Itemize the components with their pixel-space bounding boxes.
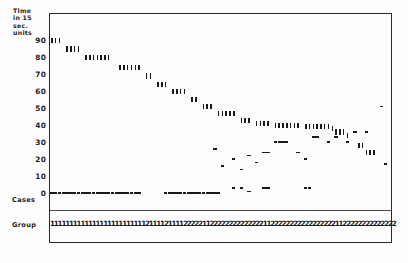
data-mark — [218, 111, 220, 116]
data-mark — [260, 121, 262, 126]
data-mark — [195, 97, 197, 102]
data-mark — [222, 111, 224, 116]
data-mark — [275, 123, 277, 128]
data-mark — [290, 123, 292, 128]
data-mark — [256, 121, 258, 126]
data-mark — [327, 141, 330, 143]
data-mark — [308, 187, 311, 189]
data-mark — [365, 131, 368, 133]
data-mark — [191, 97, 193, 102]
y-tick-label-30: 30 — [24, 138, 46, 147]
y-tick-label-80: 80 — [24, 53, 46, 62]
data-mark — [119, 65, 121, 70]
data-mark — [150, 73, 152, 78]
data-mark — [180, 89, 182, 94]
data-mark — [267, 121, 269, 126]
data-mark — [305, 124, 307, 129]
y-axis-title-line-2: in 15 — [13, 14, 51, 21]
y-tick-label-60: 60 — [24, 87, 46, 96]
data-mark — [217, 192, 220, 194]
data-mark — [362, 143, 364, 148]
data-mark — [184, 89, 186, 94]
data-mark — [123, 65, 125, 70]
data-mark — [165, 82, 167, 87]
data-mark — [324, 124, 326, 129]
data-mark — [247, 191, 250, 193]
group-indicator-row: 1111111111111111111111111211112111122222… — [50, 219, 396, 231]
data-mark — [347, 133, 349, 138]
data-mark — [373, 150, 375, 155]
data-mark — [285, 141, 288, 143]
y-tick-label-10: 10 — [24, 172, 46, 181]
data-mark — [131, 65, 133, 70]
data-mark — [206, 104, 208, 109]
data-mark — [85, 55, 87, 60]
data-mark — [161, 82, 163, 87]
data-mark — [316, 124, 318, 129]
data-mark — [248, 118, 250, 123]
row-label-group: Group — [12, 221, 54, 229]
data-mark — [353, 131, 356, 133]
y-tick-label-20: 20 — [24, 155, 46, 164]
figure-canvas: Time in 15 sec. units 908070605040302010… — [0, 0, 408, 263]
data-mark — [138, 65, 140, 70]
data-mark — [229, 111, 231, 116]
data-mark — [176, 89, 178, 94]
y-tick-label-70: 70 — [24, 70, 46, 79]
data-mark — [203, 104, 205, 109]
data-mark — [241, 118, 243, 123]
data-mark — [225, 111, 227, 116]
data-mark — [346, 141, 349, 143]
data-mark — [221, 165, 224, 167]
row-label-cases: Cases — [12, 196, 54, 204]
data-mark — [172, 89, 174, 94]
data-mark — [332, 126, 334, 131]
data-mark — [380, 106, 383, 108]
data-mark — [294, 123, 296, 128]
data-mark — [89, 55, 91, 60]
plot-frame — [49, 13, 392, 243]
data-mark — [278, 123, 280, 128]
data-mark — [320, 124, 322, 129]
y-axis-title-line-1: Time — [13, 7, 51, 14]
data-mark — [135, 65, 137, 70]
data-mark — [232, 158, 235, 160]
data-mark — [296, 152, 299, 154]
data-mark — [339, 129, 341, 134]
data-mark — [157, 82, 159, 87]
data-mark — [78, 46, 80, 51]
data-mark — [247, 155, 250, 157]
data-mark — [304, 158, 307, 160]
data-mark — [213, 148, 216, 150]
data-mark — [297, 123, 299, 128]
data-mark — [127, 65, 129, 70]
data-mark — [313, 124, 315, 129]
data-mark — [315, 136, 318, 138]
y-axis-title: Time in 15 sec. units — [13, 7, 51, 37]
data-mark — [263, 121, 265, 126]
data-mark — [286, 123, 288, 128]
data-mark — [108, 55, 110, 60]
data-mark — [240, 169, 243, 171]
data-mark — [328, 124, 330, 129]
data-mark — [334, 136, 337, 138]
data-mark — [93, 55, 95, 60]
data-mark — [369, 150, 371, 155]
data-mark — [97, 55, 99, 60]
data-mark — [255, 162, 258, 164]
data-mark — [309, 124, 311, 129]
data-mark — [233, 111, 235, 116]
data-mark — [266, 187, 269, 189]
data-mark — [104, 55, 106, 60]
data-mark — [51, 38, 53, 43]
data-mark — [66, 46, 68, 51]
data-mark — [244, 118, 246, 123]
y-tick-label-90: 90 — [24, 36, 46, 45]
data-mark — [343, 129, 345, 134]
data-mark — [232, 187, 235, 189]
data-mark — [70, 46, 72, 51]
data-mark — [210, 104, 212, 109]
data-mark — [240, 187, 243, 189]
data-mark — [146, 73, 148, 78]
data-mark — [137, 192, 140, 194]
